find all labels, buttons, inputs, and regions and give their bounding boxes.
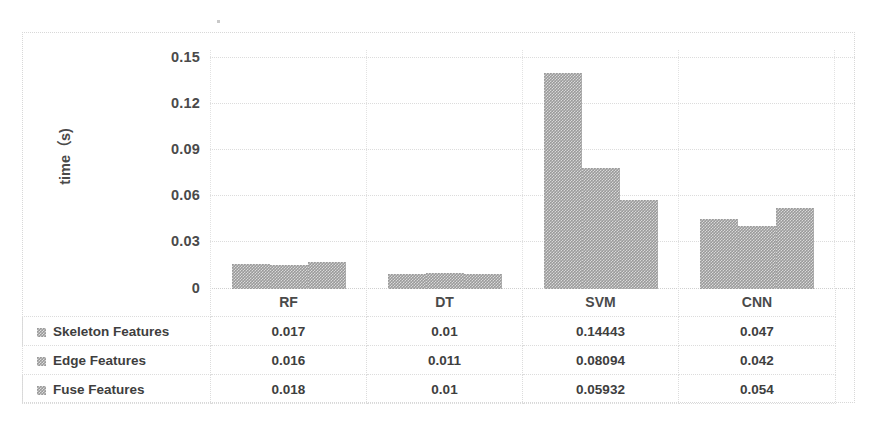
legend-swatch-icon <box>37 357 46 366</box>
bar <box>700 219 738 289</box>
bar <box>582 168 620 289</box>
table-row: Fuse Features 0.018 0.01 0.05932 0.054 <box>23 375 836 404</box>
category-separator <box>366 50 367 289</box>
y-tick-label: 0.15 <box>80 49 200 65</box>
table-cell: 0.011 <box>367 346 523 375</box>
y-tick-label: 0.06 <box>80 187 200 203</box>
table-cell: 0.018 <box>211 375 367 404</box>
x-tick-label-cnn: CNN <box>679 288 836 317</box>
table-cell: 0.042 <box>679 346 836 375</box>
bar-group-svm <box>544 50 658 289</box>
table-row: Edge Features 0.016 0.011 0.08094 0.042 <box>23 346 836 375</box>
bar <box>776 208 814 289</box>
data-table: RF DT SVM CNN Skeleton Features 0.017 0.… <box>22 288 836 404</box>
table-row: Skeleton Features 0.017 0.01 0.14443 0.0… <box>23 317 836 346</box>
scan-artifact-speck <box>217 20 220 23</box>
legend-label: Edge Features <box>53 353 146 368</box>
bar <box>738 226 776 289</box>
table-cell: 0.054 <box>679 375 836 404</box>
bar <box>544 73 582 289</box>
table-cell: 0.047 <box>679 317 836 346</box>
y-tick-label: 0.12 <box>80 95 200 111</box>
legend-label: Skeleton Features <box>53 324 169 339</box>
category-separator <box>210 50 211 289</box>
table-corner-cell <box>23 288 211 317</box>
table-cell: 0.05932 <box>523 375 679 404</box>
y-tick-label: 0.03 <box>80 233 200 249</box>
bar-group-cnn <box>700 50 814 289</box>
bar-group-dt <box>388 50 502 289</box>
table-cell: 0.016 <box>211 346 367 375</box>
table-cell: 0.01 <box>367 317 523 346</box>
bar <box>426 273 464 289</box>
legend-item-edge-features: Edge Features <box>23 346 211 375</box>
category-separator <box>678 50 679 289</box>
legend-swatch-icon <box>37 386 46 395</box>
legend-item-fuse-features: Fuse Features <box>23 375 211 404</box>
bar-group-rf <box>232 50 346 289</box>
bar <box>620 200 658 289</box>
table-cell: 0.01 <box>367 375 523 404</box>
table-cell: 0.14443 <box>523 317 679 346</box>
category-separator <box>522 50 523 289</box>
legend-item-skeleton-features: Skeleton Features <box>23 317 211 346</box>
chart-screenshot: time（s) 0.15 0.12 0.09 0.06 0.03 0 <box>0 0 876 424</box>
x-tick-label-rf: RF <box>211 288 367 317</box>
bar <box>232 264 270 289</box>
y-axis-ticks: 0.15 0.12 0.09 0.06 0.03 0 <box>60 50 200 289</box>
table-cell: 0.08094 <box>523 346 679 375</box>
y-tick-label: 0.09 <box>80 141 200 157</box>
bar <box>388 274 426 289</box>
x-tick-label-svm: SVM <box>523 288 679 317</box>
bar <box>270 265 308 289</box>
legend-label: Fuse Features <box>53 382 145 397</box>
category-separator <box>834 50 835 289</box>
table-cell: 0.017 <box>211 317 367 346</box>
bar <box>308 262 346 289</box>
bar <box>464 274 502 289</box>
x-tick-label-dt: DT <box>367 288 523 317</box>
plot-area <box>210 50 855 289</box>
table-header-row: RF DT SVM CNN <box>23 288 836 317</box>
legend-swatch-icon <box>37 328 46 337</box>
